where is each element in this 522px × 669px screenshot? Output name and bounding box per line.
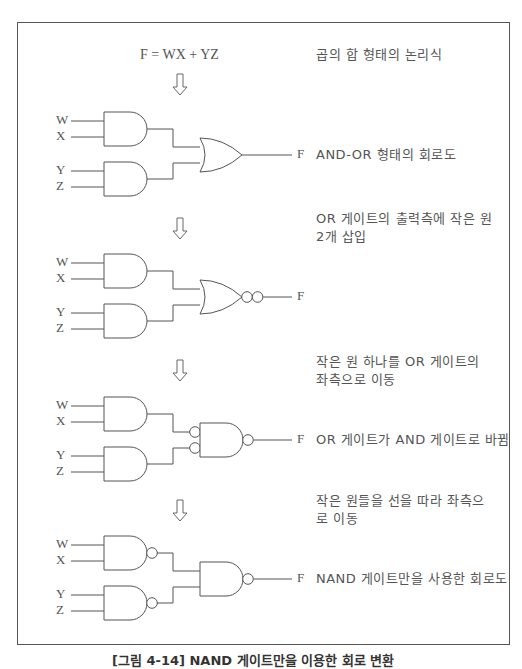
output-inverter-bubble-1 [242,292,253,303]
step-note-side-1: AND-OR 형태의 회로도 [316,146,511,164]
input-label-y: Y [56,587,65,601]
inverter-bubble-input-1 [190,427,201,438]
step-note-above-4: 작은 원들을 선을 따라 좌측으로 이동 [316,492,496,528]
input-label-w: W [56,113,68,127]
formula-note: 곱의 합 형태의 논리식 [316,46,496,64]
and-gate-output [200,562,243,596]
down-arrow-icon [173,74,187,95]
and-gate-lower [104,162,147,196]
and-gate-lower [104,586,147,620]
and-gate-lower [104,447,147,481]
step-note-side-3: OR 게이트가 AND 게이트로 바뀜 [316,431,511,449]
input-label-z: Z [56,179,64,193]
input-label-z: Z [56,603,64,617]
input-label-w: W [56,537,68,551]
down-arrow-icon [173,218,187,239]
input-label-z: Z [56,464,64,478]
input-label-x: X [56,271,65,285]
inverter-bubble-lower [147,598,158,609]
output-inverter-bubble-1 [243,574,254,585]
input-label-y: Y [56,448,65,462]
and-gate-upper [104,536,147,570]
input-label-x: X [56,553,65,567]
wire-upper-to-second [147,129,200,147]
wire-lower-to-second [147,448,190,464]
step-note-above-2: OR 게이트의 출력측에 작은 원 2개 삽입 [316,210,496,246]
and-gate-output [200,423,243,457]
or-gate [200,280,242,314]
and-gate-lower [104,304,147,338]
wire-lower-to-second [147,305,200,321]
input-label-y: Y [56,163,65,177]
output-label-f: F [297,571,304,585]
and-gate-upper [104,112,147,146]
input-label-w: W [56,255,68,269]
step-note-side-4: NAND 게이트만을 사용한 회로도 [316,570,511,588]
boolean-formula: F = WX + YZ [140,47,219,63]
wire-lower-to-second [147,163,200,179]
figure-caption: [그림 4-14] NAND 게이트만을 이용한 회로 변환 [112,650,394,669]
wire-upper-to-second [147,414,190,432]
output-label-f: F [297,432,304,446]
input-label-w: W [56,398,68,412]
wire-upper-to-second [147,271,200,289]
inverter-bubble-input-2 [190,443,201,454]
and-gate-upper [104,397,147,431]
and-gate-upper [104,254,147,288]
input-label-y: Y [56,305,65,319]
wire-lower-to-second [157,587,200,603]
output-inverter-bubble-1 [243,435,254,446]
output-label-f: F [297,147,304,161]
down-arrow-icon [173,500,187,521]
output-inverter-bubble-2 [252,292,263,303]
wire-upper-to-second [157,553,200,571]
input-label-x: X [56,129,65,143]
step-note-above-3: 작은 원 하나를 OR 게이트의 좌측으로 이동 [316,353,496,389]
or-gate [200,138,242,172]
input-label-z: Z [56,321,64,335]
inverter-bubble-upper [147,548,158,559]
down-arrow-icon [173,360,187,381]
input-label-x: X [56,414,65,428]
output-label-f: F [297,289,304,303]
